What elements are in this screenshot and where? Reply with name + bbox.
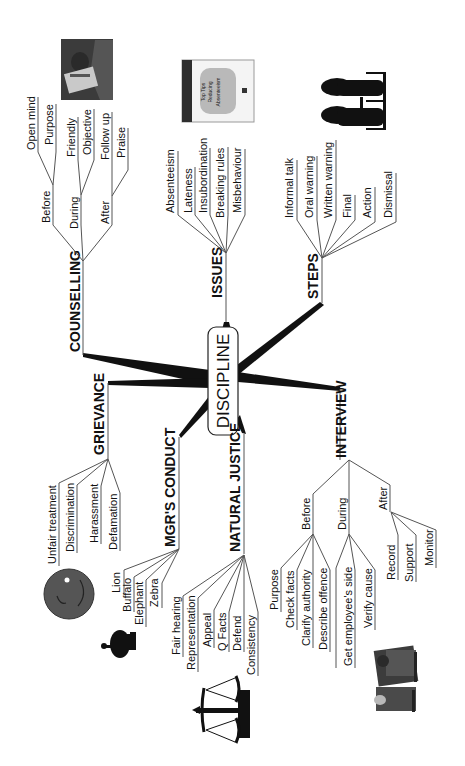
leaf-oral-warning[interactable]: Oral warning	[303, 156, 315, 218]
leaf-buffalo[interactable]: Buffalo	[121, 578, 133, 612]
leaf-representation[interactable]: Representation	[185, 595, 197, 670]
leaf-get-employees-side[interactable]: Get employee's side	[342, 567, 354, 666]
branch-steps: STEPS Informal talk Oral warning Written…	[283, 72, 396, 303]
book-title-line: Reducing	[207, 81, 213, 102]
interview-after[interactable]: After	[377, 486, 389, 510]
leaf-purpose-interview[interactable]: Purpose	[268, 569, 280, 610]
leaf-objective[interactable]: Objective	[81, 109, 93, 155]
spoke-mgrs-conduct	[179, 395, 212, 438]
animal-silhouette-icon	[101, 630, 136, 658]
leaf-fair-hearing[interactable]: Fair hearing	[170, 596, 182, 655]
branch-issues: ISSUES Absenteeism Lateness Insubordinat…	[164, 60, 254, 322]
book-cover-icon: Absenteeism Reducing Top Tips	[182, 60, 254, 122]
branch-grievance: GRIEVANCE Unfair treatment Discriminatio…	[44, 373, 120, 619]
leaf-final[interactable]: Final	[341, 194, 353, 218]
counselling-after[interactable]: After	[99, 200, 111, 224]
leaf-written-warning[interactable]: Written warning	[322, 142, 334, 218]
leaf-support[interactable]: Support	[403, 543, 415, 582]
counselling-before[interactable]: Before	[40, 191, 52, 223]
interview-during[interactable]: During	[336, 498, 348, 530]
leaf-consistency[interactable]: Consistency	[245, 615, 257, 675]
leaf-lateness[interactable]: Lateness	[182, 168, 194, 213]
branch-natural-justice: NATURAL JUSTICE Fair hearing Representat…	[170, 423, 258, 743]
hub-label: DISCIPLINE	[214, 334, 233, 428]
spoke-grievance	[108, 378, 210, 388]
leaf-friendly[interactable]: Friendly	[65, 117, 77, 157]
counselling-during[interactable]: During	[68, 197, 80, 229]
issues-label[interactable]: ISSUES	[209, 247, 225, 298]
grievance-label[interactable]: GRIEVANCE	[91, 373, 107, 455]
meeting-silhouette-icon	[321, 72, 386, 130]
leaf-clarify-authority[interactable]: Clarify authority	[300, 569, 312, 646]
scales-of-justice-icon	[192, 676, 250, 743]
leaf-breaking-rules[interactable]: Breaking rules	[214, 147, 226, 218]
book-title: Absenteeism	[215, 78, 221, 107]
leaf-unfair-treatment[interactable]: Unfair treatment	[46, 485, 58, 564]
spoke-steps	[237, 302, 324, 375]
natural-justice-label[interactable]: NATURAL JUSTICE	[227, 423, 243, 552]
leaf-defamation[interactable]: Defamation	[107, 494, 119, 550]
leaf-action[interactable]: Action	[361, 187, 373, 218]
interview-label[interactable]: INTERVIEW	[333, 380, 349, 458]
leaf-harassment[interactable]: Harassment	[88, 484, 100, 543]
leaf-line	[226, 147, 228, 253]
sad-face-icon	[44, 569, 94, 619]
branch-interview: INTERVIEW Before During After Purpose Ch…	[268, 380, 436, 712]
interview-before[interactable]: Before	[300, 498, 312, 530]
leaf-elephant[interactable]: Elephant	[133, 582, 145, 625]
leaf-verify-cause[interactable]: Verify cause	[362, 568, 374, 628]
leaf-record[interactable]: Record	[385, 545, 397, 580]
book-title-line: Top Tips	[200, 82, 206, 101]
leaf-open-mind[interactable]: Open mind	[25, 96, 37, 150]
counselling-picture-icon	[61, 39, 113, 100]
mind-map: DISCIPLINE COUNSELLING Before During Aft…	[0, 0, 465, 766]
leaf-purpose[interactable]: Purpose	[43, 104, 55, 145]
leaf-informal-talk[interactable]: Informal talk	[283, 158, 295, 218]
hub-discipline[interactable]: DISCIPLINE	[208, 327, 238, 435]
leaf-appeal[interactable]: Appeal	[201, 613, 213, 647]
leaf-dismissal[interactable]: Dismissal	[382, 171, 394, 218]
leaf-describe-offence[interactable]: Describe offence	[317, 568, 329, 650]
leaf-defend[interactable]: Defend	[231, 616, 243, 651]
leaf-check-facts[interactable]: Check facts	[284, 570, 296, 628]
mgrs-conduct-label[interactable]: MGR'S CONDUCT	[162, 427, 178, 547]
leaf-insubordination[interactable]: Insubordination	[197, 138, 209, 213]
interview-desk-icon	[374, 645, 419, 712]
leaf-zebra[interactable]: Zebra	[148, 577, 160, 607]
leaf-misbehaviour[interactable]: Misbehaviour	[231, 147, 243, 213]
leaf-praise[interactable]: Praise	[115, 127, 127, 158]
steps-label[interactable]: STEPS	[305, 253, 321, 299]
leaf-monitor[interactable]: Monitor	[423, 529, 435, 566]
leaf-q-facts[interactable]: Q Facts	[216, 612, 228, 651]
leaf-discrimination[interactable]: Discrimination	[64, 483, 76, 552]
branch-counselling: COUNSELLING Before During After Open min…	[25, 39, 128, 355]
counselling-label[interactable]: COUNSELLING	[67, 250, 83, 352]
spoke-interview	[238, 372, 340, 391]
leaf-follow-up[interactable]: Follow up	[99, 113, 111, 160]
leaf-absenteeism[interactable]: Absenteeism	[164, 149, 176, 213]
